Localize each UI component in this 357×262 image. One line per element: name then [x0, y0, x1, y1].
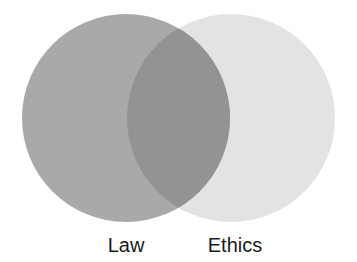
- law-label: Law: [108, 234, 145, 256]
- ethics-label: Ethics: [208, 234, 262, 256]
- venn-diagram: Law Ethics: [0, 0, 357, 262]
